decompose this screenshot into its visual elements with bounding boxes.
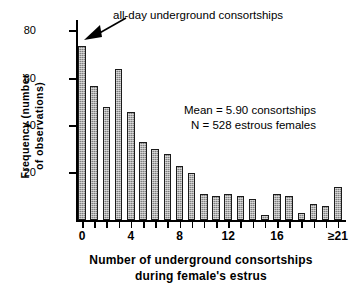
- x-axis-line: [76, 220, 346, 222]
- x-tick-mark: [253, 222, 255, 228]
- x-tick-label: 4: [127, 230, 134, 243]
- x-tick-label: 12: [222, 230, 235, 243]
- x-tick-mark: [143, 222, 145, 228]
- x-tick-mark: [180, 222, 182, 228]
- x-tick-mark: [265, 222, 267, 228]
- bar: [237, 196, 245, 220]
- y-tick-label: 20: [6, 167, 36, 178]
- bar: [176, 166, 184, 220]
- callout-label: all-day underground consortships: [113, 9, 283, 22]
- x-tick-mark: [94, 222, 96, 228]
- x-tick-mark: [119, 222, 121, 228]
- y-tick-mark: [69, 30, 76, 32]
- bar: [188, 173, 196, 220]
- y-axis-ticks: 20406080: [0, 0, 76, 292]
- bar: [249, 199, 257, 220]
- x-tick-mark: [314, 222, 316, 228]
- stats-block: Mean = 5.90 consortships N = 528 estrous…: [184, 103, 316, 133]
- x-tick-mark: [167, 222, 169, 228]
- stat-mean: Mean = 5.90 consortships: [184, 103, 316, 118]
- x-axis-title-line-2: during female's estrus: [56, 268, 346, 284]
- bar: [298, 213, 306, 220]
- x-tick-mark: [155, 222, 157, 228]
- bar: [224, 194, 232, 220]
- bar: [90, 86, 98, 220]
- bar: [127, 112, 135, 220]
- x-tick-mark: [204, 222, 206, 228]
- x-tick-label: 8: [176, 230, 183, 243]
- bar: [285, 196, 293, 220]
- bar: [273, 194, 281, 220]
- x-axis-title: Number of underground consortships durin…: [56, 252, 346, 284]
- histogram-figure: Frequency (number of observations) 20406…: [0, 0, 351, 292]
- x-tick-mark: [289, 222, 291, 228]
- x-tick-label: ≥21: [328, 230, 348, 243]
- y-tick-mark: [69, 125, 76, 127]
- bar: [151, 149, 159, 220]
- y-tick-label: 60: [6, 73, 36, 84]
- x-tick-mark: [216, 222, 218, 228]
- bar: [310, 204, 318, 221]
- bar: [200, 194, 208, 220]
- x-tick-mark: [131, 222, 133, 228]
- y-tick-label: 40: [6, 120, 36, 131]
- bar: [212, 196, 220, 220]
- x-tick-label: 16: [270, 230, 283, 243]
- x-tick-mark: [192, 222, 194, 228]
- bar: [103, 107, 111, 220]
- x-tick-label: 0: [79, 230, 86, 243]
- bar: [78, 46, 86, 220]
- x-tick-mark: [277, 222, 279, 228]
- y-tick-label: 80: [6, 25, 36, 36]
- x-tick-mark: [228, 222, 230, 228]
- bar: [115, 69, 123, 220]
- y-tick-mark: [69, 78, 76, 80]
- bar: [322, 206, 330, 220]
- x-tick-mark: [338, 222, 340, 228]
- x-tick-mark: [82, 222, 84, 228]
- stat-n: N = 528 estrous females: [184, 118, 316, 133]
- x-tick-mark: [240, 222, 242, 228]
- bar: [164, 154, 172, 220]
- bar: [334, 187, 342, 220]
- x-tick-mark: [326, 222, 328, 228]
- x-tick-mark: [106, 222, 108, 228]
- bar: [139, 142, 147, 220]
- y-tick-mark: [69, 172, 76, 174]
- bar: [261, 215, 269, 220]
- x-tick-mark: [301, 222, 303, 228]
- x-axis-title-line-1: Number of underground consortships: [56, 252, 346, 268]
